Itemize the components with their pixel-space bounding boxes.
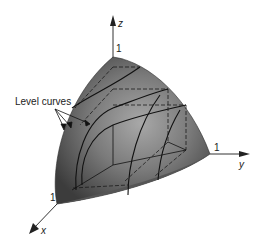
z-arrow-icon bbox=[110, 15, 116, 26]
annotation-label: Level curves bbox=[15, 96, 71, 107]
y-arrow-icon bbox=[239, 151, 250, 157]
x-axis: 1 x bbox=[29, 192, 57, 236]
z-tick-label: 1 bbox=[116, 43, 122, 54]
surface bbox=[55, 57, 210, 204]
x-tick-label: 1 bbox=[50, 192, 56, 203]
y-tick-label: 1 bbox=[214, 142, 220, 153]
y-axis-label: y bbox=[238, 159, 245, 170]
x-axis-label: x bbox=[40, 225, 47, 236]
z-axis-label: z bbox=[117, 18, 123, 29]
level-curves-diagram: z 1 bbox=[0, 0, 265, 252]
